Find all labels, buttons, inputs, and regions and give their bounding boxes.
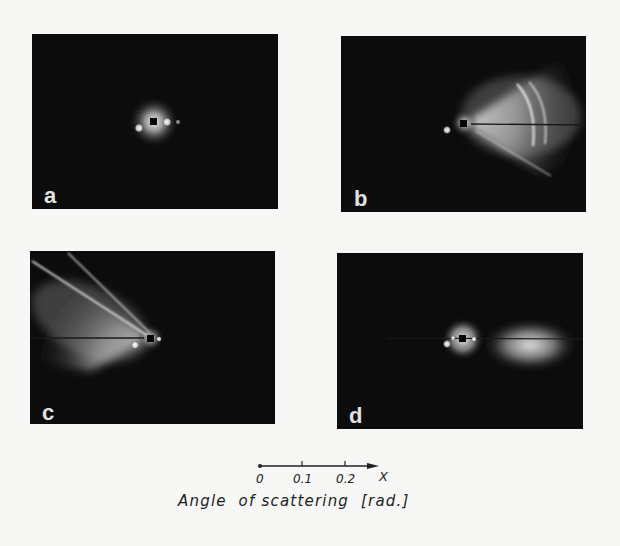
scattering-pattern-d — [337, 253, 583, 429]
diffraction-panel-d: d — [337, 253, 583, 429]
panel-label-a: a — [44, 185, 56, 207]
axis-arrow-icon — [367, 463, 379, 469]
diffraction-panel-a: a — [32, 34, 278, 209]
beam-stop — [147, 335, 154, 342]
beam-stop — [150, 118, 157, 125]
axis-origin-dot — [258, 464, 262, 468]
scattering-pattern-c — [30, 251, 275, 424]
diffraction-panel-c: c — [30, 251, 275, 424]
diffraction-panel-b: b — [341, 36, 586, 212]
tick-label-0: 0 — [256, 473, 264, 485]
scattering-pattern-b — [341, 36, 586, 212]
scattering-pattern-a — [32, 34, 278, 209]
panel-label-c: c — [42, 402, 54, 424]
panel-label-d: d — [349, 405, 362, 427]
axis-variable-label: X — [379, 470, 388, 483]
panel-label-b: b — [354, 188, 367, 210]
axis-caption: Angle of scattering [rad.] — [178, 492, 410, 510]
beam-stop — [460, 120, 467, 127]
tick-label-0.1: 0.1 — [293, 473, 312, 485]
tick-label-0.2: 0.2 — [336, 473, 355, 485]
beam-stop — [459, 335, 466, 342]
